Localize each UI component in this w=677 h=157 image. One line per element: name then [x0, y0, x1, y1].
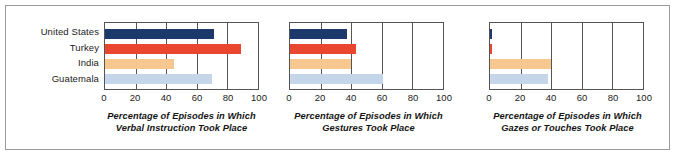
- category-label-guatemala: Guatemala: [16, 73, 99, 84]
- category-axis-labels: United States Turkey India Guatemala: [16, 24, 99, 86]
- x-tick-label-100: 100: [636, 92, 652, 103]
- bar-united-states: [105, 29, 214, 39]
- bar-turkey: [490, 44, 492, 54]
- bar-row: [105, 59, 258, 69]
- bar-row: [290, 29, 443, 39]
- x-tick-label-80: 80: [608, 92, 619, 103]
- x-tick-label-80: 80: [408, 92, 419, 103]
- bar-group: [290, 23, 443, 89]
- x-tick-label-40: 40: [161, 92, 172, 103]
- x-tick-label-100: 100: [251, 92, 267, 103]
- x-tick-label-20: 20: [130, 92, 141, 103]
- x-axis-title: Percentage of Episodes in Which Gazes or…: [471, 110, 664, 134]
- bar-india: [105, 59, 174, 69]
- bar-row: [105, 29, 258, 39]
- x-tick-label-60: 60: [377, 92, 388, 103]
- bar-united-states: [490, 29, 492, 39]
- bar-row: [290, 74, 443, 84]
- x-axis-ticks: 020406080100: [289, 92, 444, 106]
- plot-area: [489, 22, 644, 90]
- x-tick-label-100: 100: [436, 92, 452, 103]
- figure-frame: United States Turkey India Guatemala 020…: [5, 5, 670, 150]
- x-axis-title: Percentage of Episodes in Which Gestures…: [271, 110, 466, 134]
- x-tick-label-20: 20: [515, 92, 526, 103]
- x-axis-title: Percentage of Episodes in Which Verbal I…: [84, 110, 279, 134]
- x-axis-title-line1: Percentage of Episodes in Which: [271, 110, 466, 122]
- bar-group: [105, 23, 258, 89]
- x-axis-ticks: 020406080100: [104, 92, 259, 106]
- x-axis-title-line2: Gazes or Touches Took Place: [471, 122, 664, 134]
- bar-guatemala: [290, 74, 383, 84]
- x-tick-label-40: 40: [546, 92, 557, 103]
- category-label-united-states: United States: [16, 26, 99, 37]
- x-axis-title-line1: Percentage of Episodes in Which: [471, 110, 664, 122]
- x-tick-label-0: 0: [286, 92, 291, 103]
- chart-panel-gazes-or-touches: 020406080100 Percentage of Episodes in W…: [471, 6, 669, 149]
- bar-row: [105, 74, 258, 84]
- x-tick-label-0: 0: [101, 92, 106, 103]
- category-label-india: India: [16, 57, 99, 68]
- bar-group: [490, 23, 643, 89]
- bar-united-states: [290, 29, 347, 39]
- x-tick-label-40: 40: [346, 92, 357, 103]
- category-label-turkey: Turkey: [16, 42, 99, 53]
- bar-india: [490, 59, 551, 69]
- chart-panel-gestures: 020406080100 Percentage of Episodes in W…: [271, 6, 471, 149]
- x-tick-label-80: 80: [223, 92, 234, 103]
- bar-row: [105, 44, 258, 54]
- bar-row: [490, 74, 643, 84]
- bar-india: [290, 59, 351, 69]
- bar-row: [490, 44, 643, 54]
- x-axis-title-line2: Gestures Took Place: [271, 122, 466, 134]
- x-tick-label-20: 20: [315, 92, 326, 103]
- chart-panel-group: United States Turkey India Guatemala 020…: [6, 6, 669, 149]
- bar-row: [490, 29, 643, 39]
- x-axis-title-line2: Verbal Instruction Took Place: [84, 122, 279, 134]
- x-axis-ticks: 020406080100: [489, 92, 644, 106]
- plot-area: [289, 22, 444, 90]
- bar-turkey: [290, 44, 356, 54]
- bar-row: [290, 44, 443, 54]
- bar-row: [290, 59, 443, 69]
- x-tick-label-60: 60: [577, 92, 588, 103]
- x-tick-label-0: 0: [486, 92, 491, 103]
- plot-area: [104, 22, 259, 90]
- bar-turkey: [105, 44, 241, 54]
- bar-guatemala: [105, 74, 212, 84]
- chart-panel-verbal-instruction: United States Turkey India Guatemala 020…: [6, 6, 271, 149]
- x-axis-title-line1: Percentage of Episodes in Which: [84, 110, 279, 122]
- x-tick-label-60: 60: [192, 92, 203, 103]
- bar-guatemala: [490, 74, 548, 84]
- bar-row: [490, 59, 643, 69]
